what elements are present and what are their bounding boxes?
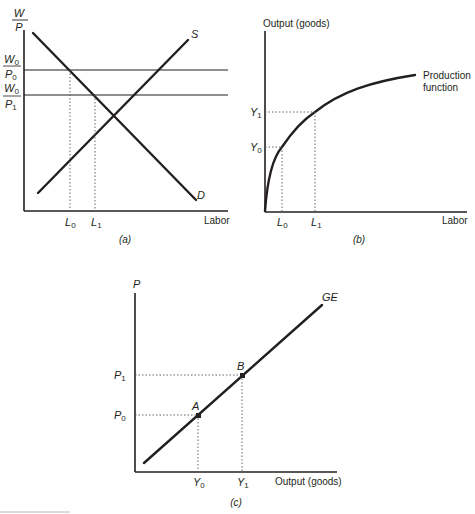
diagram-canvas: W P W0 P0 W0 P1 S D L0 L1 Labor <box>0 0 475 514</box>
svg-text:W0: W0 <box>4 53 19 67</box>
panel-c-point-b-label: B <box>237 360 244 372</box>
panel-a-labor-market: W P W0 P0 W0 P1 S D L0 L1 Labor <box>3 7 230 245</box>
panel-c-caption: (c) <box>230 497 242 508</box>
panel-b-x-label: Labor <box>442 215 468 226</box>
panel-b-curve-label-line2: function <box>423 82 458 93</box>
panel-a-demand-label: D <box>197 189 205 201</box>
panel-b-curve-label-line1: Production <box>423 70 471 81</box>
panel-c-general-equilibrium: P GE B A P1 P0 Y0 Y1 Output (goods) (c) <box>114 278 342 508</box>
panel-c-y-label: P <box>133 278 141 290</box>
panel-c-point-b <box>240 373 245 378</box>
panel-a-wage-label-p0: W0 P0 <box>3 53 21 82</box>
panel-b-y-tick-y0: Y0 <box>250 141 262 155</box>
panel-a-x-tick-l0: L0 <box>65 216 76 230</box>
panel-b-production-curve <box>265 75 415 211</box>
panel-c-x-tick-y1: Y1 <box>237 476 249 490</box>
panel-c-ge-curve <box>144 305 322 463</box>
panel-a-y-label-numerator: W <box>14 7 26 19</box>
svg-text:P1: P1 <box>5 98 17 112</box>
panel-b-caption: (b) <box>353 234 365 245</box>
panel-c-ge-label: GE <box>322 291 339 303</box>
panel-a-caption: (a) <box>119 234 131 245</box>
panel-b-x-tick-l0: L0 <box>277 216 288 230</box>
panel-a-supply-label: S <box>191 28 199 40</box>
panel-c-y-tick-p1: P1 <box>114 369 126 383</box>
panel-b-production-function: Output (goods) Production function Y1 Y0… <box>250 18 471 245</box>
panel-c-point-a-label: A <box>191 400 199 412</box>
panel-a-y-label-denominator: P <box>15 21 23 33</box>
panel-c-x-label: Output (goods) <box>275 476 342 487</box>
svg-text:P0: P0 <box>5 68 17 82</box>
panel-a-x-label: Labor <box>204 215 230 226</box>
panel-a-wage-label-p1: W0 P1 <box>3 82 21 112</box>
panel-a-x-tick-l1: L1 <box>91 216 102 230</box>
panel-c-x-tick-y0: Y0 <box>193 476 205 490</box>
svg-text:W0: W0 <box>4 82 19 96</box>
panel-b-x-tick-l1: L1 <box>311 216 322 230</box>
panel-c-y-tick-p0: P0 <box>114 409 126 423</box>
panel-b-y-tick-y1: Y1 <box>250 106 262 120</box>
panel-c-point-a <box>196 413 201 418</box>
panel-b-y-label: Output (goods) <box>263 18 330 29</box>
